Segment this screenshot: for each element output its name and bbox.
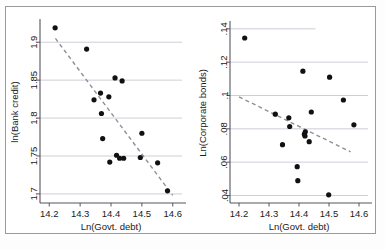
x-tick-label-0: 14.2 xyxy=(230,208,249,219)
panel-corporate-bonds: .14.12.1.08.06.0414.214.314.414.514.6Ln(… xyxy=(190,7,375,235)
data-point xyxy=(84,46,89,51)
x-axis-title: Ln(Govt. debt) xyxy=(269,221,330,232)
figure-container: 1.91.851.81.751.714.214.314.414.514.6Ln(… xyxy=(0,0,385,249)
data-point xyxy=(300,69,305,74)
y-tick-label-5: .04 xyxy=(219,189,230,202)
data-point xyxy=(295,164,300,169)
data-point xyxy=(242,35,247,40)
scatter-plot-bank-credit: 1.91.851.81.751.714.214.314.414.514.6Ln(… xyxy=(6,7,191,235)
data-point xyxy=(295,178,300,183)
scatter-plot-corporate-bonds: .14.12.1.08.06.0414.214.314.414.514.6Ln(… xyxy=(190,7,375,235)
y-tick-label-3: 1.75 xyxy=(29,147,40,166)
y-tick-label-2: .1 xyxy=(219,92,230,100)
figure-frame: 1.91.851.81.751.714.214.314.414.514.6Ln(… xyxy=(5,6,376,234)
x-tick-label-1: 14.3 xyxy=(71,208,90,219)
data-point xyxy=(280,142,285,147)
data-point xyxy=(341,97,346,102)
y-tick-label-2: 1.8 xyxy=(29,111,40,124)
data-point xyxy=(287,124,292,129)
regression-fit-line xyxy=(239,97,351,152)
x-tick-label-4: 14.6 xyxy=(163,208,182,219)
y-tick-label-4: 1.7 xyxy=(29,187,40,200)
data-point xyxy=(107,159,112,164)
x-tick-label-4: 14.6 xyxy=(350,208,369,219)
data-point xyxy=(100,136,105,141)
x-tick-label-2: 14.4 xyxy=(102,208,121,219)
data-point xyxy=(351,122,356,127)
regression-fit-line xyxy=(55,38,172,195)
y-axis-title: ln(Bank credit) xyxy=(9,81,20,142)
data-point xyxy=(303,129,308,134)
data-point xyxy=(139,131,144,136)
x-tick-label-0: 14.2 xyxy=(40,208,59,219)
data-point xyxy=(106,94,111,99)
y-tick-label-1: 1.85 xyxy=(29,71,40,90)
y-tick-label-4: .06 xyxy=(219,156,230,169)
data-point xyxy=(273,112,278,117)
data-point xyxy=(112,75,117,80)
x-tick-label-3: 14.5 xyxy=(320,208,339,219)
data-point xyxy=(165,188,170,193)
x-tick-label-2: 14.4 xyxy=(290,208,309,219)
y-axis-title: Ln(Corporate bonds) xyxy=(197,69,208,157)
data-point xyxy=(138,155,143,160)
data-point xyxy=(120,78,125,83)
data-point xyxy=(99,111,104,116)
data-point xyxy=(307,139,312,144)
data-point xyxy=(286,115,291,120)
data-point xyxy=(309,109,314,114)
data-point xyxy=(121,156,126,161)
y-tick-label-3: .08 xyxy=(219,122,230,135)
data-point xyxy=(91,97,96,102)
y-tick-label-0: 1.9 xyxy=(29,36,40,49)
data-point xyxy=(53,25,58,30)
data-point xyxy=(98,90,103,95)
data-point xyxy=(326,192,331,197)
panel-bank-credit: 1.91.851.81.751.714.214.314.414.514.6Ln(… xyxy=(6,7,191,235)
x-axis-title: Ln(Govt. debt) xyxy=(81,221,142,232)
x-tick-label-3: 14.5 xyxy=(133,208,152,219)
data-point xyxy=(155,160,160,165)
data-point xyxy=(327,75,332,80)
y-tick-label-0: .14 xyxy=(219,22,230,35)
x-tick-label-1: 14.3 xyxy=(260,208,279,219)
y-tick-label-1: .12 xyxy=(219,56,230,69)
